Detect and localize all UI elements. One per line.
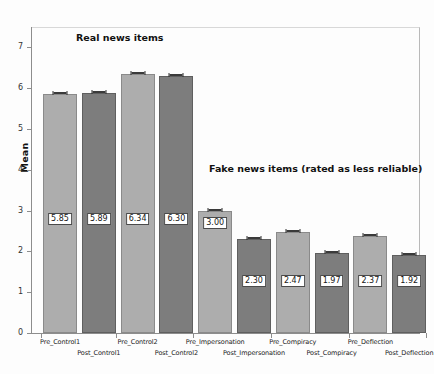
y-tick-label: 3 [4, 206, 23, 215]
x-axis-category-label: Post_Impersonation [223, 349, 285, 357]
bar-body [315, 253, 349, 333]
x-axis-category-label: Post_Deflection [385, 349, 433, 357]
bar-value-label: 1.97 [320, 275, 344, 287]
annotation-fake-news: Fake news items (rated as less reliable) [209, 163, 422, 174]
x-axis-category-label: Pre_Control1 [40, 338, 80, 346]
error-bar [130, 71, 145, 75]
error-bar-cap [131, 72, 144, 74]
annotation-real-news: Real news items [76, 32, 163, 43]
error-bar [247, 236, 262, 240]
bar-value-label: 3.00 [203, 217, 227, 229]
error-bar-cap [403, 253, 416, 255]
error-bar [285, 229, 300, 233]
error-bar [208, 208, 223, 212]
x-axis-category-label: Post_Control1 [77, 349, 120, 357]
bar-value-label: 6.30 [164, 213, 188, 225]
error-bar-cap [170, 74, 183, 76]
y-tick-label: 6 [4, 83, 23, 92]
bar: 1.92 [392, 255, 426, 333]
bar: 2.30 [237, 239, 271, 333]
error-bar-cap [92, 91, 105, 93]
x-axis-category-label: Post_Control2 [155, 349, 198, 357]
error-bar-cap [364, 234, 377, 236]
y-tick-label: 1 [4, 287, 23, 296]
error-bar-cap [325, 251, 338, 253]
y-tick-label: 5 [4, 124, 23, 133]
bar-value-label: 5.89 [87, 213, 111, 225]
bar-value-label: 5.85 [48, 213, 72, 225]
error-bar [363, 233, 378, 237]
x-axis-labels: Pre_Control1Post_Control1Pre_Control2Pos… [31, 337, 420, 367]
error-bar [324, 250, 339, 254]
bar: 2.37 [353, 236, 387, 333]
x-axis-category-label: Pre_Compiracy [269, 338, 316, 346]
x-axis-line [31, 333, 420, 334]
bar: 6.30 [159, 76, 193, 333]
bar: 5.85 [43, 94, 77, 333]
y-tick-label: 4 [4, 165, 23, 174]
error-bar [91, 90, 106, 94]
bar-body [198, 211, 232, 333]
y-tick [27, 333, 31, 334]
error-bar [169, 73, 184, 77]
x-tick [426, 333, 427, 338]
bar-value-label: 6.34 [126, 213, 150, 225]
bar: 3.00 [198, 211, 232, 333]
bar: 2.47 [276, 232, 310, 333]
x-axis-category-label: Pre_Control2 [118, 338, 158, 346]
y-tick-label: 0 [4, 328, 23, 337]
error-bar-cap [286, 230, 299, 232]
bar-value-label: 2.30 [242, 275, 266, 287]
bar-value-label: 2.47 [281, 275, 305, 287]
bar-body [392, 255, 426, 333]
bars-container: 5.855.896.346.303.002.302.471.972.371.92 [31, 27, 420, 333]
error-bar-cap [209, 209, 222, 211]
bar-chart-figure: Mean 01234567 5.855.896.346.303.002.302.… [0, 0, 434, 374]
y-tick-label: 2 [4, 246, 23, 255]
error-bar-cap [54, 92, 67, 94]
x-axis-category-label: Pre_Deflection [348, 338, 393, 346]
bar: 5.89 [82, 93, 116, 333]
x-axis-category-label: Pre_Impersonation [186, 338, 245, 346]
bar: 1.97 [315, 253, 349, 333]
y-tick-label: 7 [4, 42, 23, 51]
x-axis-category-label: Post_Compiracy [306, 349, 356, 357]
bar-value-label: 1.92 [397, 275, 421, 287]
bar-body [121, 74, 155, 333]
error-bar-cap [248, 237, 261, 239]
bar-value-label: 2.37 [358, 275, 382, 287]
y-axis-title: Mean [19, 128, 30, 188]
bar-body [159, 76, 193, 333]
error-bar [402, 252, 417, 256]
error-bar [53, 91, 68, 95]
bar: 6.34 [121, 74, 155, 333]
